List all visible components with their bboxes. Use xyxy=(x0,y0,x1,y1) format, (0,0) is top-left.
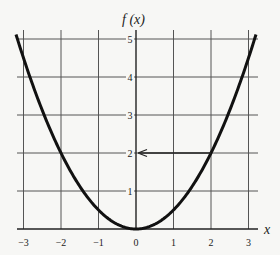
x-tick-label: −1 xyxy=(93,237,104,248)
annotation-arrow xyxy=(138,150,211,157)
x-tick-label: 1 xyxy=(171,237,176,248)
x-tick-label: 3 xyxy=(246,237,251,248)
y-tick-label: 5 xyxy=(128,34,133,45)
x-tick-label: −2 xyxy=(56,237,67,248)
x-axis-label: x xyxy=(263,222,271,237)
y-tick-label: 4 xyxy=(128,72,133,83)
plot-area: −3−2−1012312345 x f (x) xyxy=(0,0,280,255)
y-tick-label: 3 xyxy=(128,110,133,121)
x-tick-label: 2 xyxy=(209,237,214,248)
y-tick-label: 1 xyxy=(128,186,133,197)
x-tick-label: −3 xyxy=(18,237,29,248)
y-axis-label: f (x) xyxy=(122,12,145,28)
x-tick-label: 0 xyxy=(134,237,139,248)
parabola-chart: −3−2−1012312345 x f (x) xyxy=(0,0,280,255)
y-tick-label: 2 xyxy=(128,148,133,159)
